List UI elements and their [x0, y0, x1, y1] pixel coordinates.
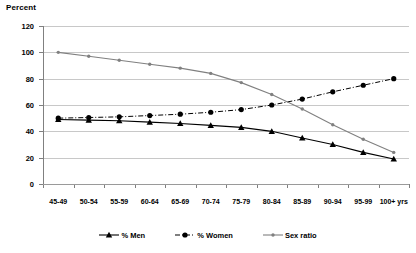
x-tick-label-95-99: 95-99	[354, 198, 372, 205]
x-tick-label-70-74: 70-74	[202, 198, 220, 205]
x-tick-label-80-84: 80-84	[263, 198, 281, 205]
x-tick-label-60-64: 60-64	[141, 198, 159, 205]
legend-marker-icon	[99, 230, 119, 240]
y-tick-label-20: 20	[0, 154, 34, 163]
chart-legend: % Men% WomenSex ratio	[0, 226, 416, 244]
x-tick-label-65-69: 65-69	[171, 198, 189, 205]
legend-marker-icon	[175, 230, 195, 240]
x-tick-label-90-94: 90-94	[324, 198, 342, 205]
y-tick-label-60: 60	[0, 101, 34, 110]
series--women	[56, 76, 397, 121]
series--men	[55, 116, 397, 161]
legend-marker-icon	[263, 230, 283, 240]
legend-item-sex-ratio[interactable]: Sex ratio	[263, 230, 317, 240]
series-sex-ratio	[57, 51, 396, 154]
x-tick-label-55-59: 55-59	[110, 198, 128, 205]
legend-item--women[interactable]: % Women	[175, 230, 233, 240]
x-tick-label-85-89: 85-89	[293, 198, 311, 205]
y-tick-label-40: 40	[0, 127, 34, 136]
legend-label: % Men	[121, 231, 145, 240]
series-lines	[43, 26, 409, 184]
x-tick-label-75-79: 75-79	[232, 198, 250, 205]
y-tick-label-120: 120	[0, 22, 34, 31]
y-tick-label-100: 100	[0, 48, 34, 57]
x-tick-mark-12	[409, 184, 410, 188]
x-tick-label-100+ yrs: 100+ yrs	[380, 198, 408, 205]
legend-label: % Women	[197, 231, 233, 240]
legend-label: Sex ratio	[285, 231, 317, 240]
gridline-0	[43, 184, 409, 185]
y-axis-title: Percent	[6, 3, 36, 12]
legend-item--men[interactable]: % Men	[99, 230, 145, 240]
chart-container: Percent 020406080100120 45-4950-5455-596…	[0, 0, 416, 253]
plot-area	[43, 26, 409, 184]
x-tick-label-45-49: 45-49	[49, 198, 67, 205]
x-tick-label-50-54: 50-54	[80, 198, 98, 205]
y-tick-label-0: 0	[0, 180, 34, 189]
y-tick-label-80: 80	[0, 75, 34, 84]
